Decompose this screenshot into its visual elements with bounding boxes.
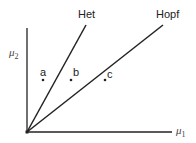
het-curve bbox=[27, 25, 86, 132]
point-a-dot bbox=[42, 79, 45, 82]
het-label: Het bbox=[78, 9, 95, 20]
x-axis-subscript: 1 bbox=[182, 130, 186, 139]
point-c-dot bbox=[104, 79, 107, 82]
hopf-curve bbox=[27, 25, 163, 132]
point-b-dot bbox=[70, 79, 73, 82]
y-axis-label: μ2 bbox=[9, 47, 19, 61]
point-b-label: b bbox=[73, 67, 79, 78]
x-axis-label: μ1 bbox=[176, 125, 186, 139]
origin-marker bbox=[26, 131, 29, 134]
hopf-label: Hopf bbox=[156, 9, 179, 20]
point-a-label: a bbox=[40, 67, 46, 78]
y-axis-subscript: 2 bbox=[15, 52, 19, 61]
diagram-canvas bbox=[0, 0, 196, 143]
point-c-label: c bbox=[107, 69, 113, 80]
